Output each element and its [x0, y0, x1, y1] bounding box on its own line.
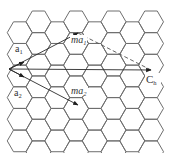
- hexagon-cell: [45, 108, 70, 130]
- hexagon-cell: [7, 130, 32, 152]
- hexagon-cell: [101, 76, 126, 98]
- hexagon-cell: [26, 33, 51, 55]
- hexagon-cell: [139, 11, 164, 33]
- hexagon-cell: [64, 11, 89, 33]
- hexagon-cell: [139, 33, 164, 55]
- hexagon-cell: [139, 141, 164, 153]
- hexagonal-lattice: [7, 11, 163, 153]
- hexagon-cell: [82, 108, 107, 130]
- hexagon-cell: [64, 119, 89, 141]
- hexagon-cell: [45, 22, 70, 44]
- hexagon-cell: [26, 98, 51, 120]
- hexagon-cell: [64, 98, 89, 120]
- hexagon-cell: [26, 76, 51, 98]
- hexagon-cell: [101, 98, 126, 120]
- hexagon-cell: [101, 54, 126, 76]
- hexagon-cell: [120, 87, 145, 109]
- hexagon-cell: [26, 54, 51, 76]
- hexagon-cell: [64, 54, 89, 76]
- hexagon-cell: [64, 141, 89, 153]
- hexagon-cell: [45, 130, 70, 152]
- hexagon-cell: [26, 11, 51, 33]
- hexagon-cell: [7, 22, 32, 44]
- hexagon-cell: [120, 22, 145, 44]
- label-a1: a1: [15, 43, 23, 55]
- hexagon-cell: [120, 65, 145, 87]
- vector-a2: [9, 69, 24, 77]
- hexagon-cell: [120, 108, 145, 130]
- hexagon-cell: [120, 130, 145, 152]
- hexagon-cell: [26, 119, 51, 141]
- hexagon-cell: [101, 141, 126, 153]
- hexagon-cell: [120, 43, 145, 65]
- hexagon-cell: [101, 11, 126, 33]
- hexagon-cell: [101, 119, 126, 141]
- hexagon-cell: [7, 108, 32, 130]
- hexagon-cell: [26, 141, 51, 153]
- dashed-line-ma1-to-ch: [78, 33, 151, 70]
- vector-ch: [9, 69, 151, 70]
- hexagon-cell: [139, 119, 164, 141]
- hexagon-cell: [45, 43, 70, 65]
- lattice-diagram: a1 a2 ma1 ma2 Ch: [0, 0, 172, 153]
- hexagon-cell: [45, 65, 70, 87]
- hexagon-cell: [139, 98, 164, 120]
- hexagon-cell: [82, 43, 107, 65]
- hexagon-cell: [82, 65, 107, 87]
- label-a2: a2: [14, 87, 22, 99]
- hexagon-cell: [82, 130, 107, 152]
